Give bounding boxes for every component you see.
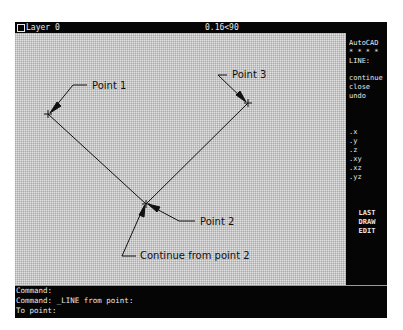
autocad-screen: Layer 0 0.16<90 Point 1 [15, 22, 387, 318]
menu-item-last[interactable]: LAST [347, 209, 387, 217]
menu-filter-y[interactable]: .y [349, 137, 357, 145]
command-history-line: Command: _LINE from point: [16, 296, 133, 306]
line-segments [48, 103, 248, 204]
menu-filter-z[interactable]: .z [349, 146, 357, 154]
coordinate-display: 0.16<90 [205, 22, 239, 33]
menu-item-draw[interactable]: DRAW [347, 218, 387, 226]
menu-separator[interactable]: * * * * [349, 48, 379, 56]
menu-filter-xz[interactable]: .xz [349, 164, 362, 172]
layer-label[interactable]: Layer 0 [26, 22, 60, 33]
command-history-line: Command: [16, 286, 52, 296]
menu-line-command[interactable]: LINE: [349, 57, 370, 65]
annotation-point-1: Point 1 [92, 80, 126, 91]
drawing-canvas[interactable]: Point 1 Point 3 Point 2 Continue from po… [15, 33, 346, 285]
menu-item-continue[interactable]: continue [349, 74, 383, 82]
menu-item-close[interactable]: close [349, 83, 370, 91]
command-line-area[interactable]: Command: Command: _LINE from point: To p… [15, 285, 387, 319]
screen-menu: AutoCAD * * * * LINE: continue close und… [347, 33, 387, 285]
annotation-continue: Continue from point 2 [140, 250, 250, 261]
annotation-point-2: Point 2 [200, 216, 234, 227]
status-bar: Layer 0 0.16<90 [15, 22, 387, 33]
menu-title-autocad[interactable]: AutoCAD [349, 39, 379, 47]
layer-color-box[interactable] [17, 24, 25, 32]
drawing-area[interactable]: Point 1 Point 3 Point 2 Continue from po… [15, 33, 346, 285]
leader-point-2 [148, 204, 195, 221]
menu-filter-xy[interactable]: .xy [349, 155, 362, 163]
line-segment-1 [48, 114, 146, 204]
command-prompt[interactable]: To point: [16, 306, 57, 316]
menu-filter-yz[interactable]: .yz [349, 173, 362, 181]
menu-filter-x[interactable]: .x [349, 128, 357, 136]
menu-item-edit[interactable]: EDIT [347, 227, 387, 235]
menu-item-undo[interactable]: undo [349, 92, 366, 100]
line-segment-2 [146, 103, 248, 204]
annotation-point-3: Point 3 [232, 69, 266, 80]
leader-point-1 [50, 85, 87, 113]
leader-continue [122, 205, 145, 256]
point-markers [44, 99, 252, 208]
